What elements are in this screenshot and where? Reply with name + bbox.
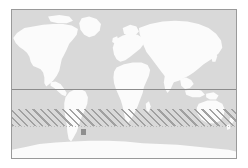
world-map-svg (12, 10, 236, 158)
map-frame (11, 9, 237, 159)
figure-root (0, 0, 248, 168)
